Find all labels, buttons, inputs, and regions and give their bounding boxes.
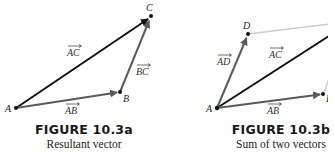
vector-ab-label: AB [266, 105, 279, 116]
vector-ab-label: AB [64, 105, 77, 116]
figure-title: FIGURE 10.3a [34, 122, 134, 137]
vector-ac-label: AC [66, 47, 80, 58]
vector-bc-label: BC [136, 66, 149, 77]
point-d-dot [246, 32, 250, 36]
point-b-dot [321, 92, 325, 96]
point-a-dot [14, 106, 18, 110]
vector-ad-label: AD [216, 56, 231, 67]
point-c-dot [149, 14, 153, 18]
figure-subtitle: Resultant vector [34, 138, 134, 150]
point-b-label: B [123, 93, 129, 104]
point-a-label: A [205, 103, 213, 114]
point-a-label: A [4, 103, 12, 114]
figure-subtitle: Sum of two vectors [226, 138, 334, 150]
point-b-dot [118, 90, 122, 94]
parallelogram-guide-dc [248, 24, 328, 34]
figure-10-3b-caption: FIGURE 10.3b Sum of two vectors [226, 122, 334, 150]
figure-title: FIGURE 10.3b [226, 122, 334, 137]
point-a-dot [215, 106, 219, 110]
figure-10-3b-diagram: A D B AD AC AB [205, 20, 328, 116]
figure-10-3a-caption: FIGURE 10.3a Resultant vector [34, 122, 134, 150]
point-b-label: B [326, 93, 328, 104]
parallelogram-guide-bc [324, 76, 328, 92]
point-d-label: D [242, 20, 251, 31]
vector-ac-label: AC [268, 49, 282, 60]
figure-10-3a-diagram: A B C AC BC AB [4, 2, 153, 116]
point-c-label: C [146, 2, 153, 13]
vector-bc-arrow [120, 21, 149, 92]
